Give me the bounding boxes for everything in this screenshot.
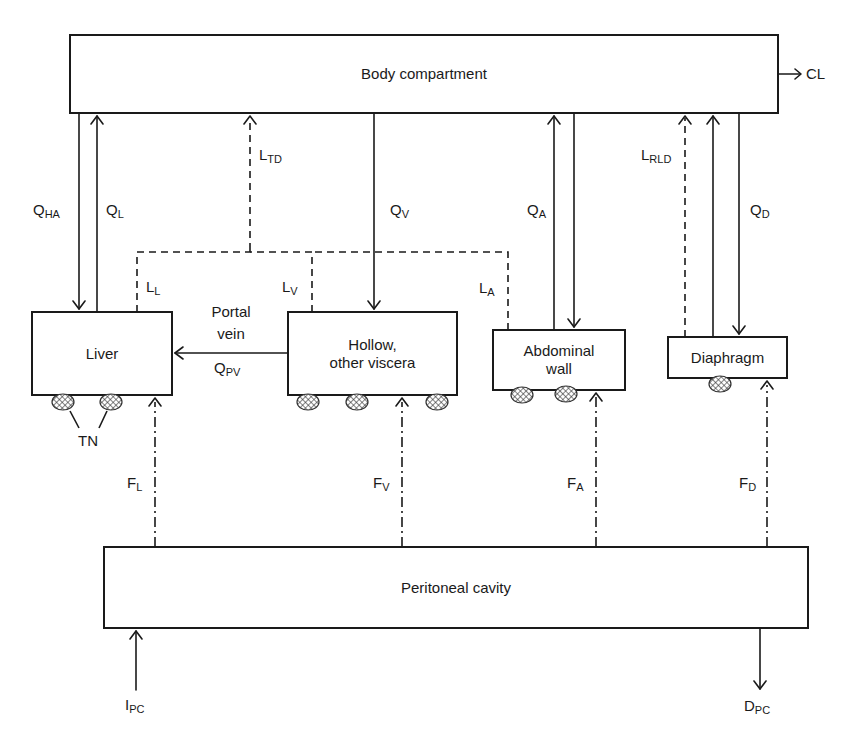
qv-arrow: [368, 113, 380, 309]
peritoneal-cavity-label: Peritoneal cavity: [104, 547, 808, 628]
qha-label: QHA: [33, 202, 60, 220]
ql-arrow: [91, 116, 103, 312]
lv-label: LV: [282, 279, 298, 297]
ll-label: LL: [146, 279, 160, 297]
fa-label: FA: [567, 475, 584, 493]
qa-arrow: [548, 116, 560, 330]
tn-connector-right: [99, 411, 107, 428]
qa-label: QA: [527, 202, 546, 220]
lrld-label: LRLD: [641, 147, 671, 165]
fl-label: FL: [127, 475, 142, 493]
ltd-label: LTD: [259, 147, 282, 165]
qv-label: QV: [390, 202, 409, 220]
abdominal-label-line1: Abdominal: [524, 342, 595, 360]
qa-down-arrow: [568, 113, 580, 327]
la-label: LA: [479, 280, 495, 298]
cl-label: CL: [806, 66, 825, 81]
body-compartment-label: Body compartment: [70, 35, 778, 113]
dpc-label: DPC: [744, 698, 770, 716]
cl-arrow: [778, 69, 801, 79]
lymph-node-icon: [426, 394, 448, 410]
fv-label: FV: [373, 475, 390, 493]
ipc-label: IPC: [125, 697, 144, 715]
abdominal-label-line2: wall: [546, 360, 572, 378]
lymph-node-icon: [100, 394, 122, 410]
tn-connector-left: [70, 411, 79, 428]
abdominal-wall-label: Abdominal wall: [493, 330, 625, 390]
qd-up-arrow: [707, 116, 719, 337]
lymph-node-icon: [346, 394, 368, 410]
portal-vein-label-line2: vein: [205, 326, 257, 341]
dpc-arrow: [754, 628, 766, 689]
ltd-arrowhead: [244, 116, 256, 124]
qpv-label: QPV: [214, 360, 240, 378]
qd-label: QD: [750, 202, 770, 220]
qd-arrow: [733, 113, 745, 334]
lymph-node-icon: [52, 394, 74, 410]
portal-vein-arrow: [175, 347, 288, 359]
fd-label: FD: [739, 475, 756, 493]
liver-label: Liver: [32, 312, 172, 395]
hollow-label-line1: Hollow,: [348, 336, 396, 354]
lv-lymph-line: [250, 252, 312, 312]
ql-label: QL: [106, 202, 124, 220]
lymph-node-icon: [297, 394, 319, 410]
portal-vein-label-line1: Portal: [205, 304, 257, 319]
hollow-label-line2: other viscera: [330, 354, 416, 372]
diaphragm-label: Diaphragm: [668, 337, 787, 378]
lymph-node-icon: [709, 376, 731, 392]
qha-arrow: [73, 113, 85, 309]
tn-label: TN: [78, 433, 98, 448]
ipc-arrow: [130, 631, 142, 690]
hollow-viscera-label: Hollow, other viscera: [288, 312, 457, 395]
